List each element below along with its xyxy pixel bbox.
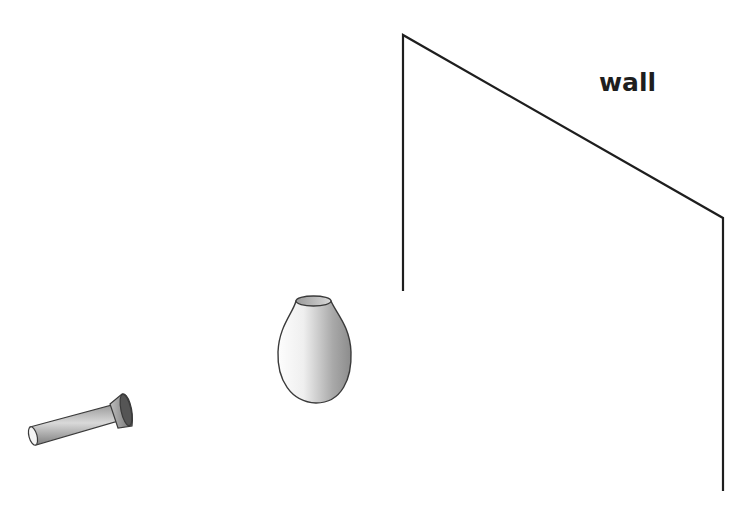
wall xyxy=(403,35,723,491)
flashlight-tube xyxy=(30,405,118,445)
flashlight xyxy=(27,393,135,446)
wall-label: wall xyxy=(599,68,656,97)
wall-outline xyxy=(403,35,723,491)
vase-mouth xyxy=(296,296,331,306)
vase xyxy=(278,296,351,403)
vase-body xyxy=(278,301,351,403)
